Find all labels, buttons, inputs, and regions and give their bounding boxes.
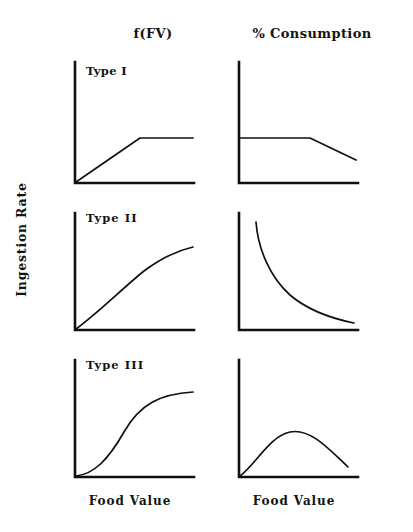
panel-axes (75, 62, 194, 183)
functional-response-figure: f(FV) % Consumption Ingestion Rate Type … (0, 0, 413, 532)
panel-axes (75, 213, 194, 330)
curve-type-1-fv (76, 138, 193, 182)
curve-type-3-fv (76, 392, 193, 476)
x-axis-label-consumption: Food Value (234, 494, 354, 508)
panel-title-type-1: Type I (86, 64, 127, 78)
panel-title-type-3: Type III (86, 358, 144, 372)
panel-type-1-consumption (232, 58, 362, 188)
curve-type-1-consumption (240, 138, 356, 160)
column-header-fv: f(FV) (108, 26, 198, 41)
panel-type-3-consumption (232, 352, 362, 482)
curve-type-2-fv (76, 247, 193, 329)
panel-type-2-consumption (232, 205, 362, 335)
curve-type-2-consumption (256, 222, 354, 323)
panel-title-type-2: Type II (86, 211, 138, 225)
column-header-consumption: % Consumption (252, 26, 372, 41)
x-axis-label-fv: Food Value (70, 494, 190, 508)
y-axis-label: Ingestion Rate (14, 175, 29, 305)
panel-axes (75, 360, 194, 477)
curve-type-3-consumption (240, 431, 348, 476)
panel-axes (239, 62, 358, 183)
